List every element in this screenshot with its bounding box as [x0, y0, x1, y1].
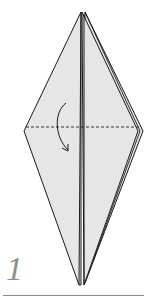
- step-number: 1: [6, 252, 23, 286]
- step-underline: [3, 295, 144, 296]
- origami-step-diagram: [0, 0, 161, 302]
